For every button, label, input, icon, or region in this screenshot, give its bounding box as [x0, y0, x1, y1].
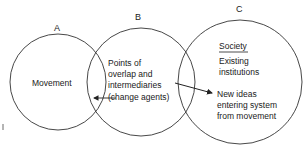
c-sub-2: entering system	[217, 100, 277, 110]
b-text-3: intermediaries	[108, 80, 161, 90]
c-sub-3: from movement	[217, 111, 276, 121]
circle-a-label: A	[54, 23, 60, 33]
c-text-2: institutions	[219, 67, 259, 77]
c-sub-1: New ideas	[217, 89, 257, 99]
circle-c	[178, 20, 302, 144]
diagram-shapes	[0, 0, 307, 149]
circle-c-label: C	[236, 4, 243, 14]
movement-text: Movement	[32, 78, 72, 88]
b-text-4: (change agents)	[108, 92, 169, 102]
c-text-1: Existing	[219, 56, 249, 66]
b-text-2: overlap and	[108, 69, 152, 79]
arrow-to-new-ideas	[175, 83, 212, 93]
society-title: Society	[219, 41, 247, 51]
venn-diagram: A B C Movement Points of overlap and int…	[0, 0, 307, 149]
circle-b-label: B	[135, 12, 141, 22]
b-text-1: Points of	[108, 58, 141, 68]
